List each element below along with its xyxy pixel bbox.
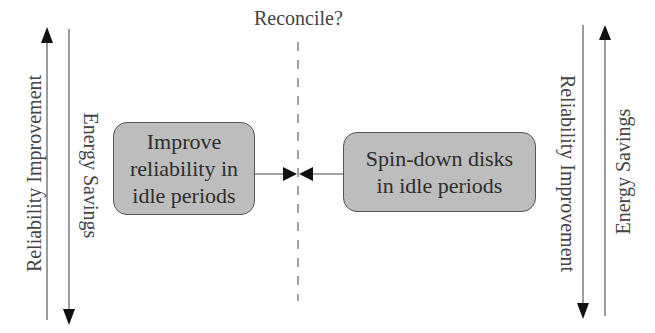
arrow-right-icon [283,167,297,181]
right-reliability-label: Reliability Improvement [556,68,579,280]
box-line: idle periods [130,182,238,209]
arrow-up-icon [599,25,611,40]
left-energy-label: Energy Savings [79,113,102,233]
arrow-up-icon [41,27,53,43]
reconcile-title: Reconcile? [254,7,343,30]
improve-reliability-box: Improve reliability in idle periods [113,122,255,215]
arrow-down-icon [63,309,75,325]
left-reliability-label: Reliability Improvement [23,68,46,280]
spin-down-disks-box: Spin-down disks in idle periods [343,132,536,212]
box-line: reliability in [130,155,238,182]
box-line: Spin-down disks [366,145,513,172]
right-energy-label: Energy Savings [612,115,635,235]
arrow-down-icon [577,303,589,319]
arrow-left-icon [299,167,313,181]
box-line: in idle periods [366,172,513,199]
box-line: Improve [130,128,238,155]
